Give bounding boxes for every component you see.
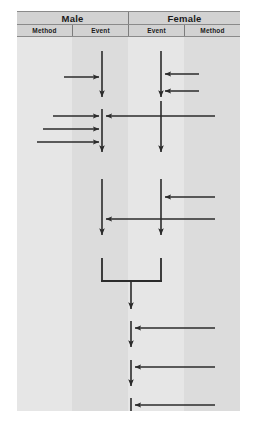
- flow-arrows-layer: [17, 37, 240, 411]
- header-group-male: Male: [17, 12, 128, 24]
- header-col-male-event: Event: [73, 25, 128, 36]
- diagram-page: Male Female Method Event Event Method: [0, 0, 257, 428]
- header-col-male-method: Method: [17, 25, 72, 36]
- header-column-row: Method Event Event Method: [17, 25, 240, 37]
- header-group-female: Female: [129, 12, 240, 24]
- header-group-row: Male Female: [17, 11, 240, 25]
- header-col-female-event: Event: [129, 25, 184, 36]
- swimlane-table: Male Female Method Event Event Method: [17, 11, 240, 411]
- header-col-female-method: Method: [185, 25, 240, 36]
- diagram-body: [17, 37, 240, 411]
